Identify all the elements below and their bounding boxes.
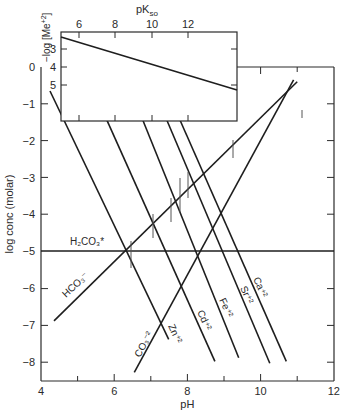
label-zn: Zn⁺² bbox=[166, 322, 185, 345]
line-fe bbox=[136, 104, 239, 358]
inset-x-tick: 10 bbox=[146, 18, 158, 30]
x-axis-label: pH bbox=[180, 398, 194, 410]
y-tick-label: −3 bbox=[22, 172, 35, 184]
x-tick-label: 8 bbox=[184, 385, 190, 397]
x-tick-label: 12 bbox=[328, 385, 340, 397]
x-tick-label: 10 bbox=[254, 385, 266, 397]
y-tick-label: −7 bbox=[22, 319, 35, 331]
inset-x-tick: 8 bbox=[112, 18, 118, 30]
y-axis-label: log conc (molar) bbox=[3, 175, 15, 254]
inset-x-tick: 6 bbox=[76, 18, 82, 30]
x-tick-label: 6 bbox=[111, 385, 117, 397]
label-co3: CO₃⁻² bbox=[132, 329, 155, 359]
line-ca bbox=[173, 104, 286, 362]
y-tick-label: −6 bbox=[22, 282, 35, 294]
y-tick-label: −5 bbox=[22, 245, 35, 257]
y-tick-label: 0 bbox=[29, 61, 35, 73]
inset-y-tick: 5 bbox=[50, 79, 56, 91]
y-tick-label: −4 bbox=[22, 208, 35, 220]
y-tick-label: −8 bbox=[22, 356, 35, 368]
y-tick-label: −1 bbox=[22, 98, 35, 110]
label-h2co3: H₂CO₃* bbox=[70, 236, 104, 247]
label-cd: Cd⁺² bbox=[195, 308, 214, 332]
inset-plot: 6 8 10 12 3 4 5 pKso −log [Me+2] bbox=[40, 3, 237, 121]
line-zn bbox=[50, 91, 169, 339]
line-co3 bbox=[134, 80, 293, 373]
intersection-markers bbox=[131, 110, 302, 268]
inset-y-label: −log [Me+2] bbox=[40, 12, 52, 62]
x-tick-label: 4 bbox=[38, 385, 44, 397]
solubility-chart: 4 6 8 10 12 pH 0 −1 −2 −3 −4 −5 −6 −7 −8… bbox=[0, 0, 344, 411]
inset-x-tick: 12 bbox=[182, 18, 194, 30]
y-tick-label: −2 bbox=[22, 135, 35, 147]
label-fe: Fe⁺² bbox=[217, 296, 236, 319]
label-hco3: HCO₃⁻ bbox=[60, 270, 90, 299]
inset-x-label: pKso bbox=[136, 3, 158, 18]
